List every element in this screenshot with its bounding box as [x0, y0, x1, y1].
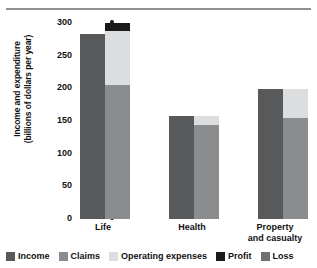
x-axis-label-property-and-casualty: Property and casualty — [233, 222, 317, 244]
legend-swatch-profit — [216, 252, 225, 261]
segment-health-claims[interactable] — [194, 125, 219, 219]
segment-property-claims[interactable] — [283, 118, 308, 219]
legend-item-loss[interactable]: Loss — [261, 251, 294, 261]
y-tick-label-50: 50 — [42, 179, 72, 191]
bar-health-income[interactable] — [169, 116, 194, 219]
y-axis-label: Income and expenditure (billions of doll… — [12, 4, 34, 174]
segment-life-operating-expenses[interactable] — [105, 31, 130, 85]
x-axis-label-property-line1: Property — [256, 222, 293, 232]
y-axis-label-line1: Income and expenditure — [12, 41, 22, 137]
y-tick-label-250: 250 — [42, 49, 72, 61]
bar-life-income[interactable] — [80, 34, 105, 219]
y-tick-label-200: 200 — [42, 81, 72, 93]
y-tick-label-150: 150 — [42, 114, 72, 126]
chart-container: Income and expenditure (billions of doll… — [0, 0, 317, 268]
legend-item-income[interactable]: Income — [6, 251, 50, 261]
legend-swatch-claims — [59, 252, 68, 261]
y-axis-label-line2: (billions of dollars per year) — [23, 4, 34, 174]
x-axis-label-health: Health — [144, 222, 240, 233]
legend-item-profit[interactable]: Profit — [216, 251, 252, 261]
legend-swatch-operating-expenses — [109, 252, 118, 261]
segment-property-operating-expenses[interactable] — [283, 89, 308, 118]
segment-life-claims[interactable] — [105, 85, 130, 219]
segment-health-operating-expenses[interactable] — [194, 116, 219, 125]
segment-life-profit[interactable] — [105, 23, 130, 31]
bar-group-health[interactable] — [169, 116, 219, 219]
x-axis-label-property-line2: and casualty — [248, 233, 303, 243]
legend-swatch-income — [6, 252, 15, 261]
bar-property-expenditure[interactable] — [283, 89, 308, 219]
legend-label-operating-expenses: Operating expenses — [121, 251, 207, 261]
legend-label-profit: Profit — [228, 251, 252, 261]
y-tick-label-100: 100 — [42, 147, 72, 159]
legend-item-operating-expenses[interactable]: Operating expenses — [109, 251, 207, 261]
legend-swatch-loss — [261, 252, 270, 261]
legend-label-claims: Claims — [71, 251, 101, 261]
plot-area — [78, 14, 310, 219]
legend-item-claims[interactable]: Claims — [59, 251, 101, 261]
x-axis-label-life: Life — [55, 222, 151, 233]
chart-legend: Income Claims Operating expenses Profit … — [6, 249, 311, 263]
bar-group-property-and-casualty[interactable] — [258, 89, 308, 219]
bar-health-expenditure[interactable] — [194, 116, 219, 219]
bar-group-life[interactable] — [80, 23, 130, 219]
bar-life-expenditure[interactable] — [105, 23, 130, 219]
y-tick-label-300: 300 — [42, 16, 72, 28]
legend-label-income: Income — [18, 251, 50, 261]
bar-property-income[interactable] — [258, 89, 283, 219]
legend-label-loss: Loss — [273, 251, 294, 261]
